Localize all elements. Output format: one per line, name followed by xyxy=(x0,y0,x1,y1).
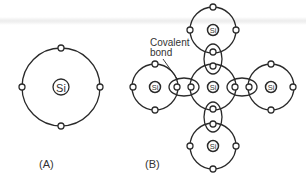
electron-icon xyxy=(152,107,158,113)
silicon-bonding-diagram: Si (A) Si Si Si Si xyxy=(0,0,306,181)
electron-icon xyxy=(290,84,296,90)
bond-electron-icon xyxy=(174,84,180,90)
electron-icon xyxy=(233,143,239,149)
electron-icon xyxy=(268,107,274,113)
electron-icon xyxy=(58,45,64,51)
bond-electron-icon xyxy=(210,106,216,112)
bond-electron-icon xyxy=(246,84,252,90)
atom-symbol: Si xyxy=(210,83,217,92)
electron-icon xyxy=(152,61,158,67)
bond-electron-icon xyxy=(188,84,194,90)
nucleus-bottom: Si xyxy=(208,141,219,152)
electron-icon xyxy=(97,84,103,90)
electron-icon xyxy=(187,27,193,33)
atom-symbol: Si xyxy=(56,82,66,94)
electron-icon xyxy=(187,143,193,149)
panel-a-label: (A) xyxy=(39,158,54,170)
electron-icon xyxy=(268,61,274,67)
nucleus-right: Si xyxy=(266,82,277,93)
panel-b-label: (B) xyxy=(145,158,160,170)
electron-icon xyxy=(210,4,216,10)
bond-electron-icon xyxy=(210,49,216,55)
atom-symbol: Si xyxy=(210,26,217,35)
bond-electron-icon xyxy=(232,84,238,90)
nucleus-left: Si xyxy=(150,82,161,93)
electron-icon xyxy=(58,123,64,129)
atom-symbol: Si xyxy=(268,83,275,92)
electron-icon xyxy=(210,166,216,172)
electron-icon xyxy=(130,84,136,90)
electron-icon xyxy=(19,84,25,90)
bond-electron-icon xyxy=(210,63,216,69)
panel-a-atom: Si xyxy=(19,45,103,129)
nucleus-top: Si xyxy=(208,25,219,36)
annotation-leader-line xyxy=(163,59,178,80)
covalent-bond-label-line2: bond xyxy=(150,47,172,58)
bond-electron-icon xyxy=(210,121,216,127)
electron-icon xyxy=(233,27,239,33)
atom-symbol: Si xyxy=(210,142,217,151)
atom-symbol: Si xyxy=(152,83,159,92)
nucleus-center: Si xyxy=(208,82,219,93)
